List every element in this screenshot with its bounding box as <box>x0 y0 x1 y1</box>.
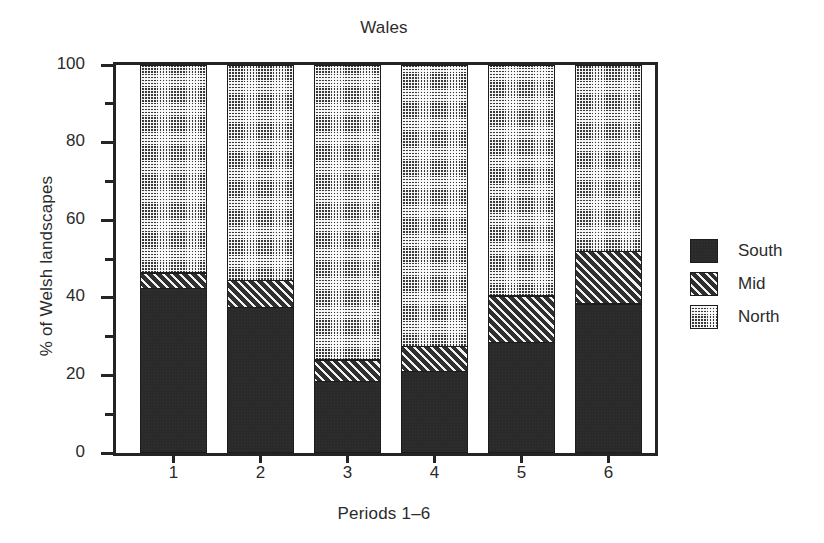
segment-divider <box>228 307 293 309</box>
x-tick-label: 4 <box>430 463 439 483</box>
segment-divider <box>315 381 380 383</box>
x-tick-label: 5 <box>517 463 526 483</box>
x-tick-label: 3 <box>343 463 352 483</box>
legend-item: South <box>690 234 782 267</box>
y-tick-minor <box>105 335 113 338</box>
x-axis-title: Periods 1–6 <box>113 504 655 524</box>
bar-segment-north <box>228 65 293 281</box>
y-axis-title: % of Welsh landscapes <box>37 101 57 431</box>
legend-swatch-south <box>690 239 718 263</box>
y-tick-label: 40 <box>66 286 85 306</box>
x-tick <box>607 453 610 463</box>
bar-segment-mid <box>489 297 554 344</box>
bar-segment-south <box>576 305 641 452</box>
y-tick-label: 100 <box>57 53 85 73</box>
y-tick-major: 80 <box>101 141 113 144</box>
legend-item: North <box>690 300 782 333</box>
segment-divider <box>489 342 554 344</box>
y-tick-major: 0 <box>101 452 113 455</box>
chart-title: Wales <box>113 18 655 38</box>
x-tick-label: 6 <box>604 463 613 483</box>
segment-divider <box>576 303 641 305</box>
bar-stack <box>575 65 642 453</box>
bar-stack <box>488 65 555 453</box>
x-tick <box>259 453 262 463</box>
bar-segment-north <box>402 65 467 347</box>
bar-segment-mid <box>402 347 467 372</box>
x-tick <box>520 453 523 463</box>
bar-segment-mid <box>315 361 380 382</box>
bar-segment-south <box>228 308 293 452</box>
bar-stack <box>314 65 381 453</box>
bar-stack <box>140 65 207 453</box>
legend-label: South <box>738 241 782 261</box>
segment-divider <box>402 346 467 348</box>
segment-divider <box>576 251 641 253</box>
bar-segment-south <box>489 343 554 452</box>
y-tick-minor <box>105 258 113 261</box>
bar-segment-north <box>141 65 206 274</box>
segment-divider <box>141 288 206 290</box>
legend-label: North <box>738 307 780 327</box>
y-tick-minor <box>105 413 113 416</box>
legend-swatch-mid <box>690 272 718 296</box>
bar-segment-south <box>141 289 206 452</box>
y-tick-label: 20 <box>66 363 85 383</box>
x-axis-line <box>113 453 658 456</box>
y-tick-minor <box>105 102 113 105</box>
chart-figure: Wales % of Welsh landscapes 020406080100… <box>0 0 824 543</box>
legend-swatch-north <box>690 305 718 329</box>
y-axis-line <box>113 62 116 456</box>
chart-legend: SouthMidNorth <box>690 234 782 333</box>
bar-segment-north <box>315 65 380 361</box>
segment-divider <box>315 359 380 361</box>
segment-divider <box>402 371 467 373</box>
x-tick <box>346 453 349 463</box>
bar-segment-mid <box>576 252 641 304</box>
x-tick-label: 2 <box>256 463 265 483</box>
segment-divider <box>141 272 206 274</box>
y-tick-major: 40 <box>101 296 113 299</box>
y-tick-minor <box>105 180 113 183</box>
y-tick-label: 0 <box>76 441 85 461</box>
y-tick-major: 20 <box>101 374 113 377</box>
bar-segment-south <box>402 372 467 452</box>
bar-stack <box>227 65 294 453</box>
legend-label: Mid <box>738 274 765 294</box>
x-tick <box>172 453 175 463</box>
x-tick <box>433 453 436 463</box>
plot-right-border <box>655 62 658 456</box>
plot-area: 020406080100 123456 <box>113 65 655 453</box>
y-tick-label: 60 <box>66 208 85 228</box>
bar-segment-north <box>576 65 641 252</box>
segment-divider <box>489 295 554 297</box>
bar-segment-north <box>489 65 554 297</box>
x-tick-label: 1 <box>169 463 178 483</box>
y-tick-label: 80 <box>66 131 85 151</box>
y-tick-major: 60 <box>101 219 113 222</box>
bar-segment-mid <box>228 281 293 308</box>
legend-item: Mid <box>690 267 782 300</box>
bar-stack <box>401 65 468 453</box>
y-tick-major: 100 <box>101 64 113 67</box>
bar-segment-south <box>315 382 380 452</box>
segment-divider <box>228 280 293 282</box>
